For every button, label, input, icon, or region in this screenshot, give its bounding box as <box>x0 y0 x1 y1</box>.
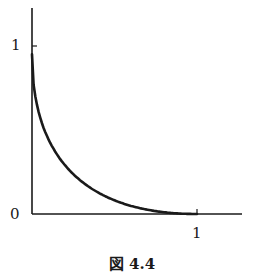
y-tick-label-1: 1 <box>11 36 21 54</box>
decay-curve <box>32 54 197 214</box>
x-tick-label-1: 1 <box>192 224 202 242</box>
origin-label: 0 <box>10 205 20 223</box>
figure-caption: 図 4.4 <box>0 252 264 273</box>
chart-plot <box>0 0 264 278</box>
